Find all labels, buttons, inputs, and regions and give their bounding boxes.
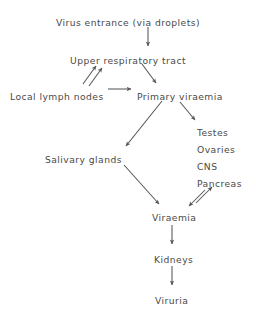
node-cns: CNS	[197, 162, 217, 171]
flowchart-edges	[0, 0, 256, 317]
arrow-primary-to-organs	[180, 102, 195, 120]
node-urt: Upper respiratory tract	[70, 56, 186, 65]
node-viruria: Viruria	[155, 296, 188, 305]
node-lymph: Local lymph nodes	[10, 92, 104, 101]
node-entrance: Virus entrance (via droplets)	[56, 18, 200, 27]
node-ovaries: Ovaries	[197, 145, 235, 154]
virus-pathogenesis-flowchart: Virus entrance (via droplets)Upper respi…	[0, 0, 256, 317]
arrow-organs-to-viraemia	[196, 187, 212, 203]
node-pancreas: Pancreas	[197, 179, 242, 188]
arrow-lymph-to-urt-a	[83, 66, 96, 84]
arrow-primary-to-salivary	[126, 101, 162, 146]
node-salivary: Salivary glands	[45, 155, 122, 164]
node-viraemia: Viraemia	[152, 213, 196, 222]
arrow-viraemia-to-organs	[189, 190, 205, 206]
node-primary: Primary viraemia	[137, 92, 223, 101]
node-kidneys: Kidneys	[154, 255, 193, 264]
arrow-salivary-to-viraemia	[124, 165, 159, 204]
arrow-lymph-to-urt-b	[89, 68, 102, 86]
node-testes: Testes	[197, 128, 228, 137]
arrow-urt-to-primary	[142, 64, 156, 83]
